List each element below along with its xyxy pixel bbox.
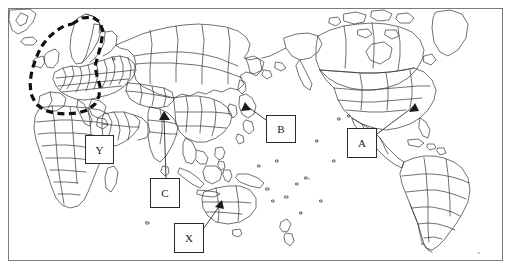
arrowhead-x xyxy=(215,200,224,209)
leader-line-c xyxy=(164,118,166,178)
landmass-southeast-asia xyxy=(178,138,264,197)
world-map-figure: A B C X Y xyxy=(0,0,511,271)
map-label-box-y[interactable]: Y xyxy=(85,135,114,164)
landmass-united-states xyxy=(320,68,436,138)
landmass-south-america xyxy=(400,156,470,252)
landmass-british-isles xyxy=(33,49,59,68)
leader-line-x xyxy=(204,205,220,228)
map-label-text-c: C xyxy=(161,187,168,199)
landmass-australia xyxy=(202,186,256,237)
leader-line-b xyxy=(248,107,266,120)
map-label-text-a: A xyxy=(358,137,366,149)
map-label-box-a[interactable]: A xyxy=(347,128,377,158)
world-map-graphic xyxy=(0,0,511,271)
map-label-box-x[interactable]: X xyxy=(174,223,204,253)
landmass-japan xyxy=(228,94,256,144)
landmass-china xyxy=(174,96,232,142)
landmass-greenland-east xyxy=(432,10,468,56)
landmass-new-zealand xyxy=(280,219,294,246)
map-label-text-b: B xyxy=(277,123,284,135)
landmass-greenland xyxy=(9,9,36,34)
arrowhead-b xyxy=(241,102,251,111)
landmass-iceland xyxy=(21,37,37,45)
map-label-text-x: X xyxy=(185,232,193,244)
map-label-box-b[interactable]: B xyxy=(266,115,296,143)
landmass-central-asia xyxy=(126,83,174,108)
landmass-russia xyxy=(116,24,264,98)
landmass-alaska xyxy=(262,33,322,90)
landmass-canada xyxy=(316,10,436,90)
map-label-text-y: Y xyxy=(96,144,104,156)
map-label-box-c[interactable]: C xyxy=(150,178,180,208)
